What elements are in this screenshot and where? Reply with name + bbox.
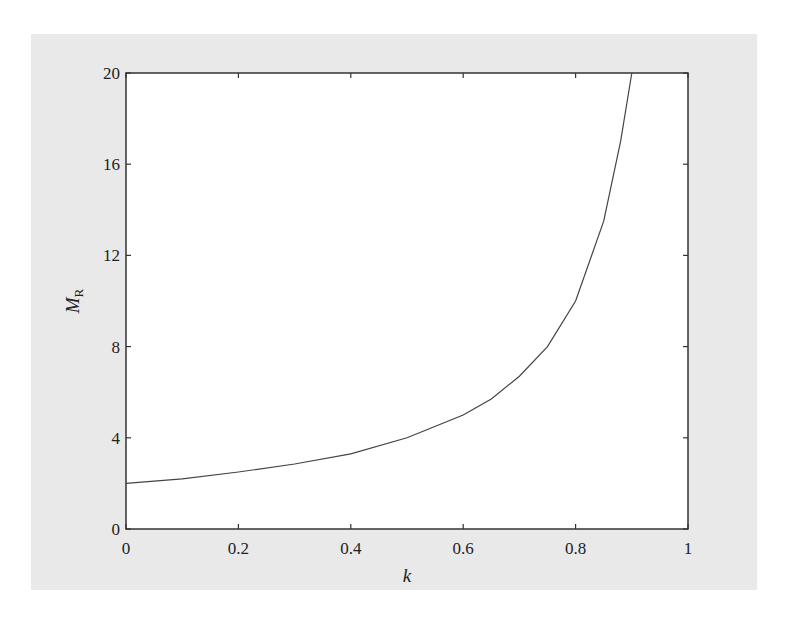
y-tick-label: 16	[103, 155, 120, 174]
plot-area	[126, 73, 688, 529]
y-tick-label: 8	[112, 338, 121, 357]
y-tick-labels: 048121620	[103, 64, 121, 539]
x-tick-label: 0.6	[453, 539, 474, 558]
y-tick-label: 4	[112, 429, 121, 448]
line-chart: 00.20.40.60.81 048121620 k MR	[0, 0, 791, 623]
y-tick-label: 12	[103, 246, 120, 265]
x-tick-label: 0.8	[565, 539, 586, 558]
x-tick-label: 0.4	[340, 539, 362, 558]
x-tick-label: 0.2	[228, 539, 249, 558]
y-axis-title-main: M	[62, 296, 83, 314]
x-tick-labels: 00.20.40.60.81	[122, 539, 693, 558]
x-axis-title: k	[403, 565, 412, 586]
y-tick-label: 20	[103, 64, 120, 83]
x-tick-label: 0	[122, 539, 131, 558]
y-axis-title: MR	[62, 288, 86, 314]
y-axis-title-subscript: R	[71, 288, 86, 297]
x-tick-label: 1	[684, 539, 693, 558]
y-tick-label: 0	[112, 520, 121, 539]
